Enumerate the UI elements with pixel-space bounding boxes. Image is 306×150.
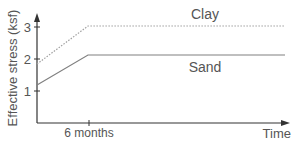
x-axis-label: Time bbox=[263, 126, 291, 141]
clay-line bbox=[37, 26, 285, 64]
y-tick-label-1: 1 bbox=[24, 84, 31, 99]
clay-label: Clay bbox=[191, 6, 219, 22]
y-axis-arrow-icon bbox=[34, 13, 40, 22]
y-tick-label-3: 3 bbox=[24, 20, 31, 35]
chart: 3 2 1 6 months Time Effective stress (ks… bbox=[0, 0, 306, 150]
y-axis-label: Effective stress (ksf) bbox=[5, 10, 20, 127]
sand-line bbox=[37, 55, 285, 85]
y-tick-label-2: 2 bbox=[24, 52, 31, 67]
sand-label: Sand bbox=[189, 59, 222, 75]
x-tick-label: 6 months bbox=[64, 126, 113, 140]
